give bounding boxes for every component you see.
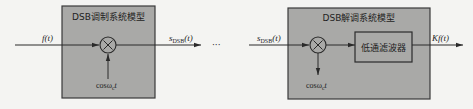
modulator-carrier-label: cosωct	[96, 81, 118, 91]
demodulator-carrier-label: cosωct	[306, 81, 328, 91]
modulator-output-label: sDSB(t)	[169, 33, 193, 44]
dsb-system-diagram: DSB调制系统模型 f(t) cosωct sDSB(t) ··· DSB解调系…	[0, 0, 473, 109]
modulator-input-label: f(t)	[42, 33, 53, 43]
modulator-block: DSB调制系统模型 f(t) cosωct sDSB(t)	[15, 6, 201, 98]
demodulator-output-label: Kf(t)	[431, 33, 449, 43]
demodulator-block: DSB解调系统模型 sDSB(t) cosωct 低通滤波器 Kf(t)	[249, 8, 463, 99]
modulator-title: DSB调制系统模型	[72, 11, 145, 22]
demodulator-input-label: sDSB(t)	[257, 33, 281, 44]
lowpass-filter-label: 低通滤波器	[361, 42, 406, 53]
modulator-multiplier	[100, 37, 116, 53]
demodulator-multiplier	[310, 37, 326, 53]
channel-ellipsis: ···	[212, 40, 221, 50]
demodulator-title: DSB解调系统模型	[323, 12, 396, 23]
